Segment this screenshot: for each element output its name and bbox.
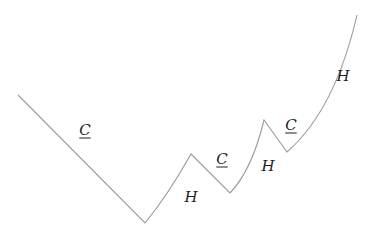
label-h-3: H bbox=[336, 69, 349, 84]
label-h-1: H bbox=[184, 190, 197, 205]
label-c-2: C bbox=[216, 152, 227, 167]
label-c-3: C bbox=[285, 118, 296, 133]
label-h-2: H bbox=[261, 159, 274, 174]
label-c-1: C bbox=[79, 123, 90, 138]
